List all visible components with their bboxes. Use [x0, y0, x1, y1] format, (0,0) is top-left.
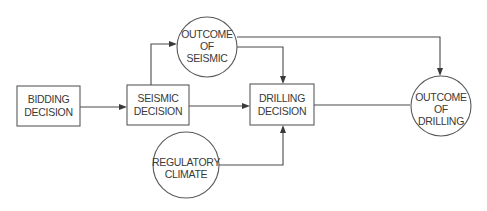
node-outcome-of-seismic: OUTCOME OF SEISMIC — [177, 17, 237, 77]
arrowhead-icon — [119, 104, 127, 110]
node-label: DRILLING — [418, 115, 464, 127]
node-label: DECISION — [258, 105, 306, 117]
node-label: OUTCOME — [415, 91, 467, 103]
edge-seismic-to-outcome-seismic — [151, 44, 171, 85]
node-regulatory-climate: REGULATORY CLIMATE — [152, 132, 220, 198]
node-label: SEISMIC — [186, 52, 228, 64]
edge-outcome-seismic-to-outcome-drilling — [237, 37, 440, 70]
arrowhead-icon — [169, 41, 177, 47]
node-drilling-decision: DRILLING DECISION — [250, 84, 314, 125]
node-label: SEISMIC — [137, 92, 179, 104]
node-label: REGULATORY — [152, 156, 220, 168]
node-label: CLIMATE — [165, 168, 208, 180]
node-label: BIDDING — [28, 93, 70, 105]
node-bidding-decision: BIDDING DECISION — [17, 86, 80, 126]
node-outcome-of-drilling: OUTCOME OF DRILLING — [411, 76, 471, 136]
node-label: DECISION — [24, 106, 72, 118]
node-label: OF — [200, 40, 214, 52]
node-label: OF — [434, 103, 448, 115]
edge-outcome-seismic-to-drilling — [236, 47, 283, 78]
edge-regulatory-to-drilling — [219, 131, 283, 165]
node-seismic-decision: SEISMIC DECISION — [127, 85, 189, 125]
node-label: DECISION — [134, 105, 182, 117]
arrowhead-icon — [437, 68, 443, 76]
node-label: DRILLING — [259, 92, 305, 104]
arrowhead-icon — [280, 125, 286, 133]
influence-diagram: BIDDING DECISION SEISMIC DECISION OUTCOM… — [0, 0, 487, 211]
node-label: OUTCOME — [181, 28, 233, 40]
arrowhead-icon — [280, 76, 286, 84]
arrowhead-icon — [242, 103, 250, 109]
